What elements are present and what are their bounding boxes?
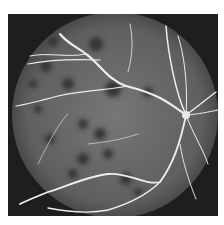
- fundus-angiogram-image: [8, 14, 218, 216]
- image-frame: [8, 14, 218, 216]
- optic-disc: [182, 111, 190, 119]
